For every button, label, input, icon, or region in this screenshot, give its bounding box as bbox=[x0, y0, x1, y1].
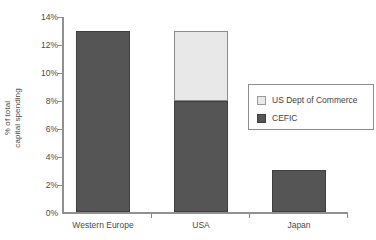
bar-segment-cefic-usa bbox=[174, 101, 228, 212]
legend-item-cefic[interactable]: CEFIC bbox=[257, 110, 373, 126]
bar-western-europe bbox=[76, 31, 130, 212]
legend-label-cefic: CEFIC bbox=[272, 113, 298, 123]
bar-japan bbox=[272, 170, 326, 212]
x-category-label-japan: Japan bbox=[259, 220, 339, 230]
bar-segment-us-dept-of-commerce-usa bbox=[174, 31, 228, 101]
chart-legend: US Dept of Commerce CEFIC bbox=[248, 84, 374, 130]
bar-chart: % of total capital spending 14% 12% 10% … bbox=[0, 0, 376, 240]
legend-item-us-dept-of-commerce[interactable]: US Dept of Commerce bbox=[257, 92, 373, 108]
x-category-label-western-europe: Western Europe bbox=[61, 220, 145, 230]
bar-segment-cefic-western-europe bbox=[76, 31, 130, 212]
legend-label-us-dept-of-commerce: US Dept of Commerce bbox=[272, 95, 358, 105]
bar-usa bbox=[174, 31, 228, 212]
x-category-label-usa: USA bbox=[161, 220, 241, 230]
legend-swatch-icon-cefic bbox=[257, 114, 266, 123]
legend-swatch-icon-us-dept-of-commerce bbox=[257, 96, 266, 105]
bar-segment-cefic-japan bbox=[272, 170, 326, 212]
